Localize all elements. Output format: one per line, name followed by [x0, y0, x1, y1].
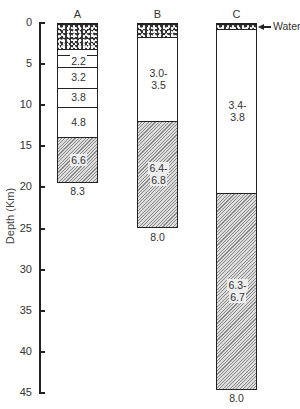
- axis-tick: [39, 186, 45, 188]
- depth-axis-label: Depth (Km): [4, 188, 16, 244]
- water-label: Water: [273, 20, 300, 32]
- column-b: B3.0-3.56.4-6.88.0: [137, 0, 178, 409]
- blank-layer: 4.8: [57, 108, 98, 138]
- axis-tick-label: 45: [4, 386, 32, 398]
- blank-layer: 2.2: [57, 56, 98, 68]
- velocity-label: 3.4-3.8: [217, 99, 258, 123]
- mantle-velocity-label: 8.0: [216, 392, 257, 404]
- axis-tick-label: 5: [4, 57, 32, 69]
- velocity-label: 2.2: [58, 55, 99, 67]
- blank-layer: 3.0-3.5: [137, 38, 178, 122]
- velocity-label: 3.2: [58, 71, 99, 83]
- column-label: C: [216, 8, 257, 20]
- velocity-label: 4.8: [58, 116, 99, 128]
- axis-tick: [39, 392, 45, 394]
- velocity-label: 3.0-3.5: [138, 67, 179, 91]
- depth-axis-line: [39, 23, 41, 394]
- axis-tick: [39, 269, 45, 271]
- axis-tick-label: 0: [4, 16, 32, 28]
- hatch-layer: 6.6: [57, 138, 98, 183]
- sediment-layer: [137, 23, 178, 38]
- column-label: B: [137, 8, 178, 20]
- velocity-label: 3.8: [58, 91, 99, 103]
- sediment-layer: [57, 23, 98, 50]
- mantle-velocity-label: 8.0: [137, 231, 178, 243]
- axis-tick: [39, 22, 45, 24]
- column-c: C3.4-3.86.3-6.78.0: [216, 0, 257, 409]
- axis-tick-label: 40: [4, 345, 32, 357]
- mantle-velocity-label: 8.3: [57, 185, 98, 197]
- axis-tick: [39, 63, 45, 65]
- velocity-label: 6.3-6.7: [217, 279, 258, 303]
- axis-tick-label: 30: [4, 263, 32, 275]
- axis-tick: [39, 228, 45, 230]
- sediment-layer: [216, 23, 257, 30]
- hatch-layer: 6.3-6.7: [216, 194, 257, 390]
- blank-layer: 3.8: [57, 89, 98, 108]
- axis-tick: [39, 104, 45, 106]
- column-label: A: [57, 8, 98, 20]
- axis-tick-label: 15: [4, 139, 32, 151]
- hatch-layer: 6.4-6.8: [137, 122, 178, 229]
- axis-tick: [39, 145, 45, 147]
- axis-tick: [39, 351, 45, 353]
- blank-layer: 3.2: [57, 68, 98, 89]
- axis-tick: [39, 310, 45, 312]
- axis-tick-label: 35: [4, 304, 32, 316]
- axis-tick-label: 10: [4, 98, 32, 110]
- water-arrow-line: [263, 26, 271, 28]
- column-a: A2.23.23.84.86.68.3: [57, 0, 98, 409]
- blank-layer: 3.4-3.8: [216, 30, 257, 194]
- velocity-label: 6.4-6.8: [138, 162, 179, 186]
- velocity-label: 6.6: [58, 154, 99, 166]
